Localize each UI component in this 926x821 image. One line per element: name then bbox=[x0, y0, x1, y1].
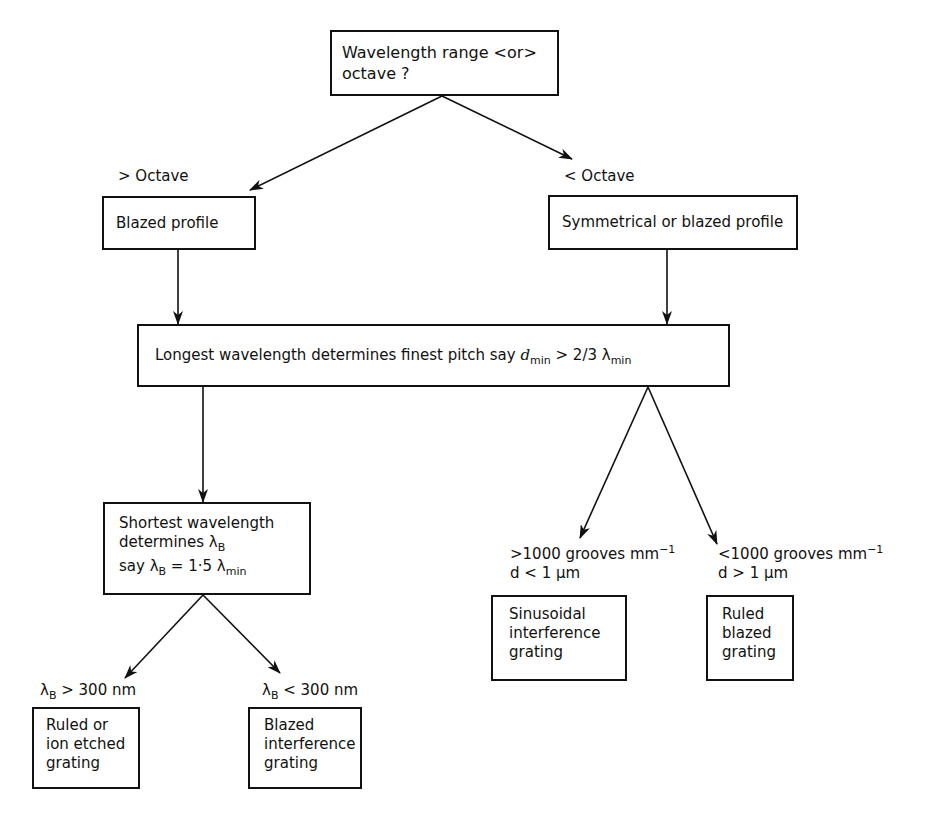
label-text: > 300 nm bbox=[56, 681, 136, 699]
edge-label-lt-1000-grooves: <1000 grooves mm−1 d > 1 μm bbox=[718, 540, 883, 583]
subscript: B bbox=[159, 565, 167, 578]
label-text: d < 1 μm bbox=[510, 564, 675, 583]
node-wavelength-range: Wavelength range <or> octave ? bbox=[330, 30, 559, 96]
superscript: −1 bbox=[867, 543, 883, 556]
node-text: grating bbox=[46, 754, 126, 773]
node-longest-wavelength: Longest wavelength determines finest pit… bbox=[137, 324, 730, 387]
edge-label-gt-1000-grooves: >1000 grooves mm−1 d < 1 μm bbox=[510, 540, 675, 583]
node-text: Wavelength range <or> bbox=[342, 42, 547, 63]
connector-arrows bbox=[0, 0, 926, 821]
subscript: B bbox=[218, 541, 226, 554]
node-text: Blazed bbox=[264, 716, 346, 735]
label-text: < 300 nm bbox=[278, 681, 358, 699]
label-text: d > 1 μm bbox=[718, 564, 883, 583]
node-text: Blazed profile bbox=[116, 214, 218, 232]
relation-text: > 2/3 λ bbox=[551, 346, 611, 364]
node-text: grating bbox=[264, 754, 346, 773]
node-text: interference bbox=[509, 624, 609, 643]
node-text: octave ? bbox=[342, 63, 547, 84]
subscript: min bbox=[226, 565, 247, 578]
edge-label-lt-octave: < Octave bbox=[564, 167, 635, 186]
node-shortest-wavelength: Shortest wavelength determines λB say λB… bbox=[103, 502, 311, 595]
node-ruled-blazed-grating: Ruled blazed grating bbox=[706, 595, 794, 681]
node-blazed-profile: Blazed profile bbox=[102, 196, 256, 250]
edge-label-lambda-lt-300: λB < 300 nm bbox=[262, 681, 358, 705]
node-sinusoidal-grating: Sinusoidal interference grating bbox=[491, 595, 627, 681]
label-text: >1000 grooves mm bbox=[510, 545, 659, 563]
node-text: grating bbox=[509, 643, 609, 662]
label-text: λ bbox=[40, 681, 49, 699]
node-ruled-ion-etched-grating: Ruled or ion etched grating bbox=[32, 707, 140, 789]
node-blazed-interference-grating: Blazed interference grating bbox=[248, 707, 362, 789]
var-d: d bbox=[520, 346, 530, 364]
subscript: min bbox=[611, 354, 632, 367]
subscript: min bbox=[530, 354, 551, 367]
superscript: −1 bbox=[659, 543, 675, 556]
node-text: Ruled bbox=[722, 605, 778, 624]
label-text: λ bbox=[262, 681, 271, 699]
node-text: Ruled or bbox=[46, 716, 126, 735]
edge-label-lambda-gt-300: λB > 300 nm bbox=[40, 681, 136, 705]
node-text: Longest wavelength determines finest pit… bbox=[155, 346, 520, 364]
edge-label-gt-octave: > Octave bbox=[118, 167, 189, 186]
node-text: interference bbox=[264, 735, 346, 754]
node-text: Symmetrical or blazed profile bbox=[562, 213, 783, 231]
node-text: grating bbox=[722, 643, 778, 662]
node-text: Shortest wavelength bbox=[119, 514, 295, 533]
node-text: Sinusoidal bbox=[509, 605, 609, 624]
node-text: determines λ bbox=[119, 533, 218, 551]
node-text: say λ bbox=[119, 557, 159, 575]
node-symmetrical-profile: Symmetrical or blazed profile bbox=[548, 195, 798, 250]
node-text: blazed bbox=[722, 624, 778, 643]
node-text: = 1·5 λ bbox=[166, 557, 226, 575]
label-text: <1000 grooves mm bbox=[718, 545, 867, 563]
node-text: ion etched bbox=[46, 735, 126, 754]
